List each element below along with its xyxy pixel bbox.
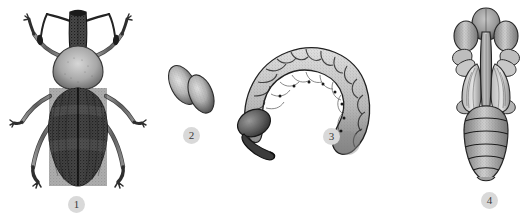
figure-label-4: 4: [481, 192, 498, 209]
figure-weevil-pupa: [450, 6, 522, 188]
figure-label-2: 2: [183, 127, 200, 144]
figure-adult-weevil: [8, 4, 148, 194]
weevil-mid-leg-right: [106, 96, 146, 127]
figure-label-3: 3: [323, 128, 340, 145]
weevil-mid-leg-left: [10, 96, 50, 127]
weevil-pronotum: [53, 46, 103, 90]
pupa-abdomen: [464, 106, 508, 181]
pupa-rostrum-sheath: [481, 32, 492, 106]
figure-label-1: 1: [68, 196, 85, 213]
figure-weevil-larva: [230, 38, 375, 163]
larva-head-capsule: [233, 104, 275, 142]
illustration-plate: 1: [0, 0, 527, 216]
larva-spiracles: [279, 81, 346, 133]
figure-weevil-eggs: [163, 57, 223, 119]
